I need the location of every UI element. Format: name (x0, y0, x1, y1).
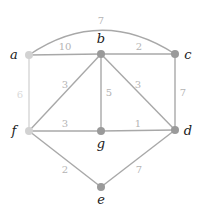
node-label-d: d (184, 123, 192, 138)
node-label-c: c (184, 47, 192, 62)
weight-f-e: 2 (62, 164, 68, 175)
edge-g-d (101, 130, 175, 131)
weight-a-b: 10 (59, 41, 72, 52)
weight-e-d: 7 (136, 164, 142, 175)
node-c (171, 50, 179, 58)
node-label-a: a (10, 47, 18, 62)
weight-b-c: 2 (136, 41, 142, 52)
node-label-b: b (97, 31, 105, 46)
node-e (97, 183, 105, 191)
weighted-graph-diagram: 7 10 2 6 3 5 3 7 3 1 2 7 a b c f g d e (0, 0, 202, 213)
node-label-e: e (97, 192, 105, 207)
node-f (25, 127, 33, 135)
weight-a-f: 6 (17, 89, 23, 100)
node-d (171, 126, 179, 134)
weight-f-g: 3 (62, 118, 68, 129)
node-a (25, 51, 33, 59)
weight-b-g: 5 (106, 87, 112, 98)
node-label-f: f (11, 123, 19, 138)
node-b (97, 50, 105, 58)
weight-a-c: 7 (98, 15, 104, 26)
weight-b-f: 3 (62, 79, 68, 90)
weight-g-d: 1 (135, 118, 141, 129)
edge-a-b (29, 54, 101, 55)
node-g (97, 127, 105, 135)
edge-e-d (101, 130, 175, 187)
edge-f-e (29, 131, 101, 187)
weight-c-d: 7 (180, 87, 186, 98)
weight-b-d: 3 (135, 79, 141, 90)
node-label-g: g (97, 136, 105, 151)
